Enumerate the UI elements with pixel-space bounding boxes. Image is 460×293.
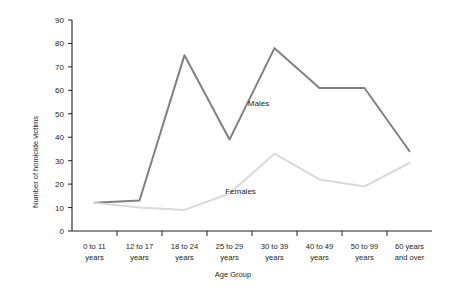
y-axis-tick-labels: 0102030405060708090 [55, 16, 64, 236]
chart-canvas: Number of homicide victims 0102030405060… [0, 0, 460, 293]
y-tick-label: 80 [55, 39, 64, 48]
x-axis-title: Age Group [215, 270, 251, 279]
series-annotation-females: Females [225, 187, 256, 196]
x-tick-label: years [85, 253, 104, 262]
x-tick-label: years [355, 253, 374, 262]
x-tick-label: years [130, 253, 149, 262]
x-tick-label: 50 to 99 [351, 242, 378, 251]
y-tick-label: 40 [55, 133, 64, 142]
x-axis-tick-marks [117, 231, 387, 236]
x-tick-label: 30 to 39 [261, 242, 288, 251]
series-annotations: MalesFemales [225, 99, 269, 195]
y-axis-tick-marks [68, 20, 72, 231]
x-axis-tick-labels: 0 to 11years12 to 17years18 to 24years25… [83, 242, 425, 262]
y-tick-label: 10 [55, 204, 64, 213]
x-tick-label: and over [395, 253, 425, 262]
y-tick-label: 90 [55, 16, 64, 25]
x-tick-label: 18 to 24 [171, 242, 198, 251]
series-annotation-males: Males [248, 99, 269, 108]
y-tick-label: 30 [55, 157, 64, 166]
y-tick-label: 20 [55, 180, 64, 189]
line-chart: Number of homicide victims 0102030405060… [0, 0, 460, 293]
y-axis-title: Number of homicide victims [31, 116, 40, 208]
x-tick-label: years [265, 253, 284, 262]
y-tick-label: 50 [55, 110, 64, 119]
series-line-females [95, 154, 410, 210]
x-tick-label: 60 years [395, 242, 424, 251]
x-tick-label: 0 to 11 [83, 242, 106, 251]
x-tick-label: years [220, 253, 239, 262]
x-tick-label: 12 to 17 [126, 242, 153, 251]
y-tick-label: 70 [55, 63, 64, 72]
y-tick-label: 60 [55, 86, 64, 95]
x-tick-label: 40 to 49 [306, 242, 333, 251]
series-line-males [95, 48, 410, 203]
x-tick-label: years [175, 253, 194, 262]
x-tick-label: years [310, 253, 329, 262]
y-tick-label: 0 [60, 227, 65, 236]
x-tick-label: 25 to 29 [216, 242, 243, 251]
